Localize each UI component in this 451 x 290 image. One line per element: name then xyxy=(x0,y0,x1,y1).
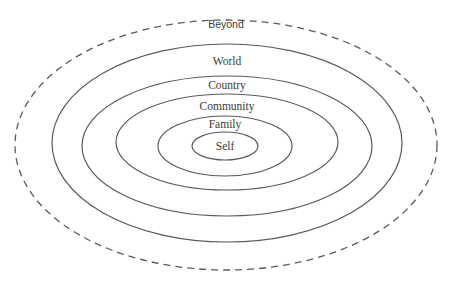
ring-community-label: Community xyxy=(200,100,255,113)
ring-world-label: World xyxy=(213,55,242,67)
ring-country-label: Country xyxy=(208,79,246,92)
ring-self: Self xyxy=(192,132,258,160)
ring-beyond-label: Beyond xyxy=(208,18,244,30)
concentric-circles-diagram: Beyond World Country Community Family Se… xyxy=(0,0,451,290)
ring-family-label: Family xyxy=(209,118,242,131)
ring-self-label: Self xyxy=(216,140,235,152)
